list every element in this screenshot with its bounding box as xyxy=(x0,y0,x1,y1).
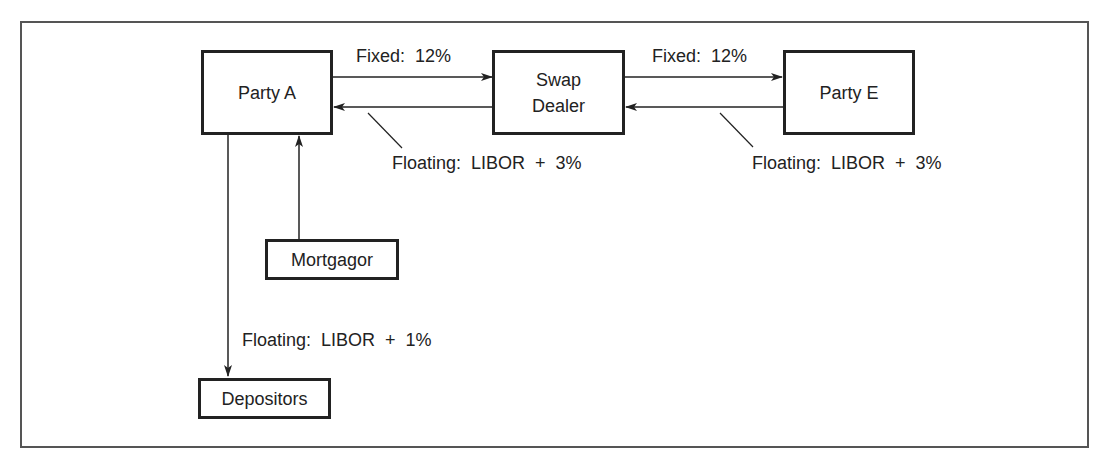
swap-dealer-label-line2: Dealer xyxy=(532,93,585,119)
party-a-label: Party A xyxy=(238,80,296,106)
leader-dealer-to-a xyxy=(368,113,402,148)
edge-label-e-to-dealer: Floating: LIBOR + 3% xyxy=(752,153,942,174)
depositors-label: Depositors xyxy=(221,386,307,412)
swap-dealer-label-line1: Swap xyxy=(536,67,581,93)
party-e-label: Party E xyxy=(819,80,878,106)
node-party-a: Party A xyxy=(201,50,333,135)
node-mortgagor: Mortgagor xyxy=(265,239,399,280)
leader-e-to-dealer xyxy=(720,113,753,147)
node-party-e: Party E xyxy=(783,50,915,135)
edge-label-dealer-to-e: Fixed: 12% xyxy=(652,46,747,67)
edge-label-a-to-dealer: Fixed: 12% xyxy=(356,46,451,67)
node-depositors: Depositors xyxy=(198,378,331,419)
edge-label-dealer-to-a: Floating: LIBOR + 3% xyxy=(392,153,582,174)
edge-label-a-to-depositors: Floating: LIBOR + 1% xyxy=(242,330,432,351)
mortgagor-label: Mortgagor xyxy=(291,247,373,273)
node-swap-dealer: Swap Dealer xyxy=(492,50,625,135)
